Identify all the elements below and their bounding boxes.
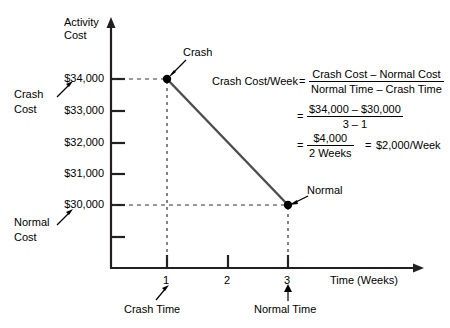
formula-fraction-1: Crash Cost – Normal Cost Normal Time – C… [309, 68, 444, 95]
crash-cost-label-line2: Cost [14, 103, 37, 116]
formula-equals-2: = [297, 110, 303, 123]
formula-fraction-2: $34,000 – $30,000 3 – 1 [307, 103, 403, 130]
normal-cost-label-line1: Normal [14, 216, 49, 229]
normal-cost-label-line2: Cost [14, 231, 37, 244]
formula-equals-1: = [299, 75, 305, 88]
formula-fraction-3: $4,000 2 Weeks [307, 132, 354, 159]
y-tick-label-31000: $31,000 [44, 167, 104, 180]
data-point-normal[interactable] [284, 201, 292, 209]
formula-line1-denominator: Normal Time – Crash Time [309, 82, 444, 95]
formula-equals-4: = [365, 139, 371, 152]
x-axis-title: Time (Weeks) [330, 274, 398, 287]
formula-equals-3: = [297, 139, 303, 152]
y-tick-label-33000: $33,000 [44, 104, 104, 117]
formula-line3-denominator: 2 Weeks [307, 146, 354, 159]
formula-line3-numerator: $4,000 [307, 132, 354, 146]
crash-point-arrow [168, 60, 186, 78]
x-tick-label-2: 2 [224, 274, 230, 287]
y-axis-title-line1: Activity [64, 16, 99, 29]
x-axis-ticks [167, 255, 288, 268]
cost-slope-line [167, 79, 288, 205]
formula-result: $2,000/Week [376, 139, 441, 152]
crash-time-label: Crash Time [124, 303, 180, 316]
y-axis-title-line2: Cost [64, 29, 87, 42]
guide-lines [113, 79, 288, 262]
x-tick-label-1: 1 [163, 274, 169, 287]
crash-time-arrow [156, 285, 169, 300]
normal-point-arrow [289, 196, 308, 205]
y-tick-label-30000: $30,000 [44, 198, 104, 211]
crash-point-label: Crash [183, 46, 212, 59]
figure-canvas: Activity Cost $34,000 $33,000 $32,000 $3… [0, 0, 450, 328]
formula-line1-numerator: Crash Cost – Normal Cost [309, 68, 444, 82]
y-axis-ticks [111, 79, 125, 237]
x-axis [110, 264, 424, 273]
formula-line2-denominator: 3 – 1 [307, 117, 403, 130]
y-tick-label-32000: $32,000 [44, 136, 104, 149]
formula-lhs: Crash Cost/Week [212, 75, 298, 88]
y-tick-label-34000: $34,000 [44, 72, 104, 85]
formula-line2-numerator: $34,000 – $30,000 [307, 103, 403, 117]
normal-time-label: Normal Time [254, 303, 316, 316]
crash-cost-label-line1: Crash [14, 88, 43, 101]
x-tick-label-3: 3 [284, 274, 290, 287]
normal-cost-arrow [57, 209, 73, 225]
normal-point-label: Normal [307, 184, 342, 197]
